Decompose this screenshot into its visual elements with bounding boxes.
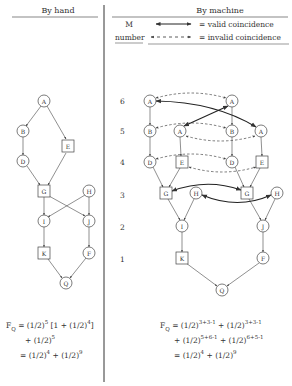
legend-invalid: = invalid coincidence [199,33,281,42]
node-D: D [17,155,29,167]
row-label-5: 5 [120,127,125,136]
svg-text:B: B [21,128,26,135]
svg-text:D: D [230,159,235,166]
formula-right-line-2: + (1/2)5+6-1 + (1/2)6+5-1 [160,333,264,348]
row-label-6: 6 [120,97,125,106]
node-I: I [38,215,50,227]
svg-text:Q: Q [220,287,225,294]
node-Q: Q [60,277,72,289]
svg-text:G: G [245,190,250,197]
svg-text:F: F [261,255,265,262]
row-label-1: 1 [120,255,125,264]
svg-text:A: A [177,128,183,135]
left-graph-edges [23,106,89,278]
node-J: J [83,215,95,227]
node-A: A [38,95,50,107]
header-by-hand: By hand [41,6,74,15]
formula-right-line-3: = (1/2)4 + (1/2)9 [160,348,264,363]
legend-m-label: M [125,20,133,29]
node-B-gen5-left: B [144,125,156,137]
node-E-gen4-right: E [256,156,268,168]
legend: M = valid coincidence number = invalid c… [115,20,289,44]
header-by-machine: By machine [196,6,244,15]
svg-text:H: H [274,190,279,197]
node-A-gen5-left: A [174,125,186,137]
node-A-gen5-right: A [255,125,267,137]
formula-by-machine: FQ = (1/2)3+3-1 + (1/2)3+3-1 + (1/2)5+6-… [160,318,264,363]
header-right: By machine [112,6,288,17]
svg-text:F: F [87,250,91,257]
svg-text:J: J [261,223,265,231]
node-B-gen5-right: B [226,125,238,137]
formula-left-line-3: = (1/2)4 + (1/2)9 [6,348,94,363]
svg-text:E: E [180,159,184,166]
svg-text:J: J [87,218,91,226]
svg-text:G: G [42,188,47,195]
svg-text:D: D [21,158,26,165]
node-E-gen4-left: E [176,156,188,168]
svg-text:E: E [260,159,264,166]
svg-text:H: H [193,190,198,197]
svg-text:B: B [230,128,235,135]
svg-text:B: B [148,128,153,135]
formula-left-line-1: FQ = (1/2)5 [1 + (1/2)4] [6,318,94,333]
svg-text:Q: Q [64,280,69,287]
pedigree-coincidence-figure: By hand By machine M = valid coincidence… [0,0,292,386]
node-F-gen1: F [257,252,269,264]
generation-row-labels: 6 5 4 3 2 1 [120,97,125,264]
node-H-gen3-left: H [190,187,202,199]
valid-coincidence-arrows [156,101,271,203]
node-J-gen2: J [257,220,269,232]
header-left: By hand [12,6,98,17]
row-label-4: 4 [120,158,125,167]
node-D-gen4-right: D [226,156,238,168]
invalid-coincidence-arrows [156,93,256,172]
node-F: F [83,247,95,259]
node-B: B [17,125,29,137]
node-H: H [83,185,95,197]
formula-right-line-1: FQ = (1/2)3+3-1 + (1/2)3+3-1 [160,318,264,333]
node-D-gen4-left: D [144,156,156,168]
left-graph-nodes: A B E D G H I J K F Q [17,95,95,289]
svg-text:D: D [148,159,153,166]
row-label-3: 3 [120,191,125,200]
svg-text:A: A [41,98,47,105]
node-G-gen3-left: G [160,187,172,199]
formula-left-line-2: + (1/2)5 [6,333,94,348]
svg-text:E: E [66,143,70,150]
node-G: G [38,185,50,197]
node-H-gen3-right: H [271,187,283,199]
svg-text:G: G [164,190,169,197]
svg-text:H: H [86,188,91,195]
legend-valid: = valid coincidence [199,20,274,29]
node-K-gen1: K [176,252,188,264]
svg-text:A: A [147,98,153,105]
svg-text:A: A [229,98,235,105]
node-G-gen3-right: G [241,187,253,199]
svg-text:K: K [42,250,47,257]
node-Q-root: Q [216,284,228,296]
node-K: K [38,247,50,259]
row-label-2: 2 [120,223,125,232]
formula-by-hand: FQ = (1/2)5 [1 + (1/2)4] + (1/2)5 = (1/2… [6,318,94,363]
node-A-gen6-left: A [144,95,156,107]
legend-number-label: number [115,33,145,42]
node-A-gen6-right: A [226,95,238,107]
node-I-gen2: I [176,220,188,232]
node-E: E [62,140,74,152]
right-graph-nodes: A A B A B A D E D E G H G H I J K F Q [144,95,283,296]
svg-text:K: K [180,255,185,262]
svg-text:A: A [258,128,264,135]
